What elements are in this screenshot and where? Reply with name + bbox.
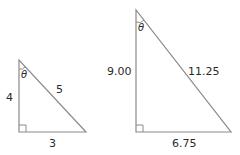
small-base-label: 3 bbox=[49, 137, 56, 150]
small-angle-label: θ bbox=[21, 69, 27, 80]
large-vertical-side-label: 9.00 bbox=[107, 65, 132, 78]
small-hypotenuse-label: 5 bbox=[56, 83, 63, 96]
small-vertical-side-label: 4 bbox=[6, 91, 13, 104]
large-base-label: 6.75 bbox=[172, 137, 197, 150]
small-right-angle-mark bbox=[19, 125, 26, 132]
large-triangle: θ 9.00 11.25 6.75 bbox=[107, 10, 231, 150]
large-right-angle-mark bbox=[136, 125, 143, 132]
small-triangle: θ 4 5 3 bbox=[6, 60, 86, 150]
small-triangle-outline bbox=[19, 60, 86, 132]
large-angle-label: θ bbox=[138, 22, 144, 33]
similar-triangles-diagram: θ 4 5 3 θ 9.00 11.25 6.75 bbox=[0, 0, 240, 155]
large-hypotenuse-label: 11.25 bbox=[188, 65, 220, 78]
